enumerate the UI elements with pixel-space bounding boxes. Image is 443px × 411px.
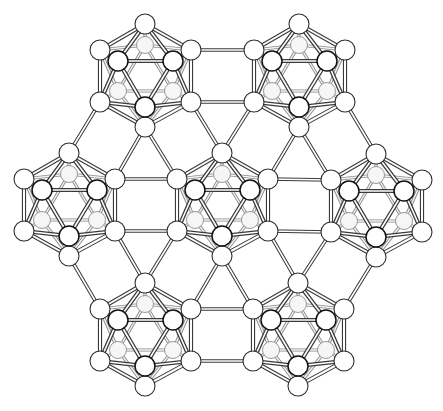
boron-atom-front: [316, 310, 336, 330]
boron-atom-front: [240, 180, 260, 200]
boron-atom-outer: [90, 40, 110, 60]
boron-atom-outer: [366, 144, 386, 164]
boron-atom-outer: [105, 221, 125, 241]
boron-atom-front: [185, 180, 205, 200]
boron-atom-outer: [366, 247, 386, 267]
network-svg: [0, 0, 443, 411]
ico-top-left: [90, 14, 201, 137]
boron-atom-outer: [14, 169, 34, 189]
icosahedral-boron-network-diagram: [0, 0, 443, 411]
boron-atom-outer: [135, 376, 155, 396]
boron-atom-back: [264, 83, 281, 100]
boron-atom-back: [341, 213, 358, 230]
boron-atom-front: [366, 227, 386, 247]
boron-atom-front: [261, 310, 281, 330]
boron-atom-outer: [14, 221, 34, 241]
boron-atom-back: [110, 342, 127, 359]
boron-atom-front: [32, 180, 52, 200]
ico-middle-right: [321, 144, 432, 267]
boron-atom-outer: [335, 40, 355, 60]
boron-atom-front: [135, 97, 155, 117]
ico-bottom-right: [243, 273, 354, 396]
boron-atom-back: [291, 37, 308, 54]
boron-atom-outer: [412, 222, 432, 242]
boron-atom-front: [339, 181, 359, 201]
boron-atom-front: [163, 51, 183, 71]
boron-atom-outer: [335, 92, 355, 112]
boron-atom-outer: [288, 273, 308, 293]
boron-atom-front: [87, 180, 107, 200]
boron-atom-outer: [90, 351, 110, 371]
boron-atom-back: [214, 166, 231, 183]
icosahedra-layer: [14, 14, 432, 396]
boron-atom-outer: [59, 246, 79, 266]
boron-atom-outer: [243, 351, 263, 371]
boron-atom-outer: [181, 40, 201, 60]
ico-middle-left: [14, 143, 125, 266]
boron-atom-outer: [135, 14, 155, 34]
boron-atom-back: [165, 83, 182, 100]
boron-atom-front: [108, 310, 128, 330]
boron-atom-front: [289, 97, 309, 117]
boron-atom-outer: [334, 299, 354, 319]
boron-atom-front: [317, 51, 337, 71]
boron-atom-outer: [244, 40, 264, 60]
boron-atom-outer: [181, 299, 201, 319]
boron-atom-back: [61, 166, 78, 183]
boron-atom-outer: [181, 351, 201, 371]
boron-atom-back: [187, 212, 204, 229]
boron-atom-back: [319, 83, 336, 100]
boron-atom-back: [165, 342, 182, 359]
boron-atom-outer: [167, 221, 187, 241]
boron-atom-front: [212, 226, 232, 246]
boron-atom-outer: [105, 169, 125, 189]
boron-atom-outer: [135, 273, 155, 293]
boron-atom-back: [368, 167, 385, 184]
boron-atom-back: [34, 212, 51, 229]
boron-atom-outer: [135, 117, 155, 137]
ico-top-right: [244, 14, 355, 137]
boron-atom-outer: [258, 221, 278, 241]
boron-atom-back: [290, 296, 307, 313]
ico-middle-center: [167, 143, 278, 266]
boron-atom-back: [110, 83, 127, 100]
boron-atom-outer: [212, 246, 232, 266]
boron-atom-outer: [412, 170, 432, 190]
boron-atom-outer: [212, 143, 232, 163]
boron-atom-front: [59, 226, 79, 246]
boron-atom-outer: [90, 299, 110, 319]
boron-atom-front: [163, 310, 183, 330]
boron-atom-outer: [334, 351, 354, 371]
boron-atom-outer: [243, 299, 263, 319]
boron-atom-back: [137, 296, 154, 313]
boron-atom-outer: [321, 222, 341, 242]
boron-atom-front: [394, 181, 414, 201]
boron-atom-front: [288, 356, 308, 376]
boron-atom-outer: [90, 92, 110, 112]
boron-atom-front: [262, 51, 282, 71]
boron-atom-outer: [289, 14, 309, 34]
boron-atom-outer: [321, 170, 341, 190]
ico-bottom-left: [90, 273, 201, 396]
boron-atom-outer: [288, 376, 308, 396]
boron-atom-front: [108, 51, 128, 71]
boron-atom-front: [135, 356, 155, 376]
boron-atom-outer: [167, 169, 187, 189]
boron-atom-outer: [258, 169, 278, 189]
boron-atom-back: [318, 342, 335, 359]
boron-atom-outer: [59, 143, 79, 163]
boron-atom-back: [396, 213, 413, 230]
boron-atom-back: [89, 212, 106, 229]
boron-atom-back: [242, 212, 259, 229]
boron-atom-back: [263, 342, 280, 359]
boron-atom-back: [137, 37, 154, 54]
boron-atom-outer: [289, 117, 309, 137]
boron-atom-outer: [244, 92, 264, 112]
boron-atom-outer: [181, 92, 201, 112]
